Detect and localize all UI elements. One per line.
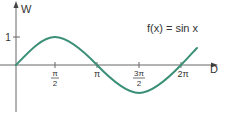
chart-canvas: W D 1 f(x) = sin x π 2 π 3π 2 2π [0, 0, 225, 123]
x-tick-label-2pi: 2π [177, 69, 188, 79]
x-tick-label-3pi-half-den: 2 [137, 79, 142, 88]
x-tick-label-pi-half-num: π [52, 69, 58, 78]
function-annotation: f(x) = sin x [147, 22, 199, 34]
x-tick-label-pi: π [94, 69, 100, 79]
y-axis-arrow-icon [14, 1, 19, 8]
sine-chart: W D 1 f(x) = sin x π 2 π 3π 2 2π [0, 0, 225, 123]
y-tick-label-1: 1 [5, 32, 11, 43]
x-tick-label-3pi-half-num: 3π [134, 69, 144, 78]
x-tick-label-pi-half-den: 2 [53, 79, 58, 88]
y-axis-label: W [21, 3, 32, 15]
x-axis-label: D [210, 63, 218, 75]
